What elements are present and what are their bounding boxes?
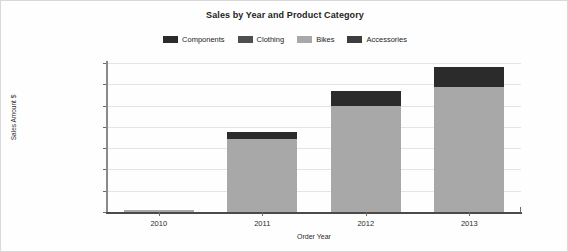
y-axis-line bbox=[106, 61, 108, 213]
gridline bbox=[107, 63, 521, 64]
x-axis-tick-label: 2010 bbox=[150, 219, 167, 228]
x-axis-end-tick bbox=[520, 207, 521, 213]
x-axis-line bbox=[106, 212, 522, 214]
bar-segment-components[interactable] bbox=[331, 91, 401, 106]
x-axis-tick-label: 2013 bbox=[461, 219, 478, 228]
x-axis-tick-mark bbox=[159, 212, 160, 216]
bar-group[interactable] bbox=[331, 91, 401, 212]
bar-segment-components[interactable] bbox=[434, 67, 504, 87]
x-axis-tick-mark bbox=[262, 212, 263, 216]
bar-segment-components[interactable] bbox=[227, 132, 297, 139]
x-axis-tick-label: 2012 bbox=[357, 219, 374, 228]
x-axis-tick-label: 2011 bbox=[254, 219, 270, 228]
y-axis-title: Sales Amount $ bbox=[10, 78, 17, 158]
bar-segment-bikes[interactable] bbox=[331, 106, 401, 212]
x-axis-title: Order Year bbox=[107, 233, 521, 240]
chart-container: Sales by Year and Product Category Compo… bbox=[0, 0, 568, 252]
plot-area: $0$5,000,000$10,000,000$15,000,000$20,00… bbox=[107, 63, 521, 212]
plot-wrapper: Sales Amount $ $0$5,000,000$10,000,000$1… bbox=[1, 1, 568, 252]
bar-segment-bikes[interactable] bbox=[227, 139, 297, 212]
bar-group[interactable] bbox=[227, 132, 297, 212]
bar-segment-bikes[interactable] bbox=[434, 87, 504, 212]
bar-group[interactable] bbox=[434, 67, 504, 212]
x-axis-tick-mark bbox=[366, 212, 367, 216]
x-axis-tick-mark bbox=[469, 212, 470, 216]
